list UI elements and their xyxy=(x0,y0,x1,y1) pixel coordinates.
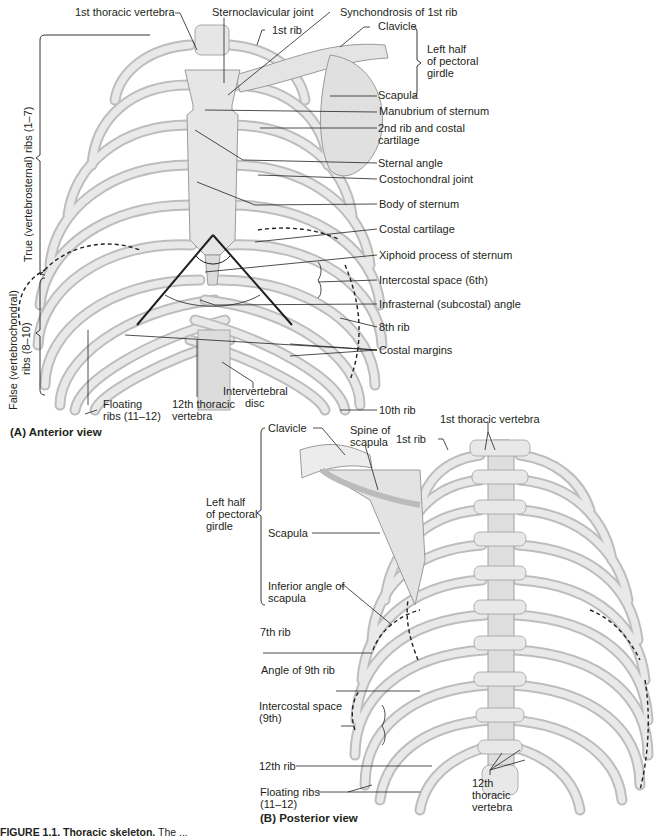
label-floating-ribs-posterior-2: (11–12) xyxy=(260,798,297,811)
label-manubrium: Manubrium of sternum xyxy=(379,105,489,118)
label-xiphoid-process: Xiphoid process of sternum xyxy=(379,249,512,262)
label-false-ribs-2: ribs (8–10) xyxy=(20,322,32,375)
label-1st-rib: 1st rib xyxy=(272,24,302,37)
label-inferior-angle-2: scapula xyxy=(268,592,306,605)
caption-text: The ... xyxy=(158,826,188,838)
posterior-view-title: (B) Posterior view xyxy=(260,812,358,824)
sternum xyxy=(185,70,240,255)
label-intercostal-space-6th: Intercostal space (6th) xyxy=(379,274,488,287)
label-pectoral-girdle-3: girdle xyxy=(427,67,454,80)
label-12th-rib: 12th rib xyxy=(259,760,296,773)
label-12th-thoracic-vertebra-posterior-3: vertebra xyxy=(472,801,512,814)
label-body-of-sternum: Body of sternum xyxy=(379,198,459,211)
label-clavicle-posterior: Clavicle xyxy=(268,422,307,435)
label-clavicle: Clavicle xyxy=(378,20,417,33)
label-sternoclavicular-joint: Sternoclavicular joint xyxy=(212,6,314,19)
label-10th-rib: 10th rib xyxy=(379,404,416,417)
label-intercostal-space-9th-2: (9th) xyxy=(259,712,282,725)
anterior-scapula xyxy=(321,55,383,176)
label-8th-rib: 8th rib xyxy=(379,321,410,334)
label-angle-9th-rib: Angle of 9th rib xyxy=(261,664,335,677)
caption-title: Thoracic skeleton. xyxy=(63,826,155,838)
label-scapula-posterior: Scapula xyxy=(268,527,308,540)
label-pectoral-girdle-posterior-3: girdle xyxy=(206,520,233,533)
label-2nd-rib-2: cartilage xyxy=(378,134,420,147)
label-false-ribs-1: False (vertebrochondral) xyxy=(7,290,19,410)
xiphoid-process xyxy=(205,255,220,285)
label-costal-cartilage: Costal cartilage xyxy=(379,223,455,236)
label-1st-thoracic-vertebra: 1st thoracic vertebra xyxy=(75,6,175,19)
label-spine-of-scapula-2: scapula xyxy=(350,436,388,449)
anterior-view-title: (A) Anterior view xyxy=(10,426,102,438)
label-12th-thoracic-vertebra-2: vertebra xyxy=(172,410,212,423)
label-floating-ribs-2: ribs (11–12) xyxy=(103,410,161,423)
label-7th-rib: 7th rib xyxy=(260,626,291,639)
label-costochondral-joint: Costochondral joint xyxy=(379,173,473,186)
label-intervertebral-disc-2: disc xyxy=(245,397,265,410)
label-1st-rib-posterior: 1st rib xyxy=(396,433,426,446)
label-scapula: Scapula xyxy=(378,89,418,102)
label-synchondrosis-1st-rib: Synchondrosis of 1st rib xyxy=(340,6,457,19)
label-costal-margins: Costal margins xyxy=(379,344,452,357)
figure-caption: FIGURE 1.1. Thoracic skeleton. The ... xyxy=(0,826,188,838)
label-sternal-angle: Sternal angle xyxy=(378,157,443,170)
label-infrasternal-angle: Infrasternal (subcostal) angle xyxy=(379,298,521,311)
label-1st-thoracic-vertebra-posterior: 1st thoracic vertebra xyxy=(440,413,540,426)
label-true-ribs: True (vertebrosternal) ribs (1–7) xyxy=(22,107,34,262)
caption-label: FIGURE 1.1. xyxy=(0,826,60,838)
